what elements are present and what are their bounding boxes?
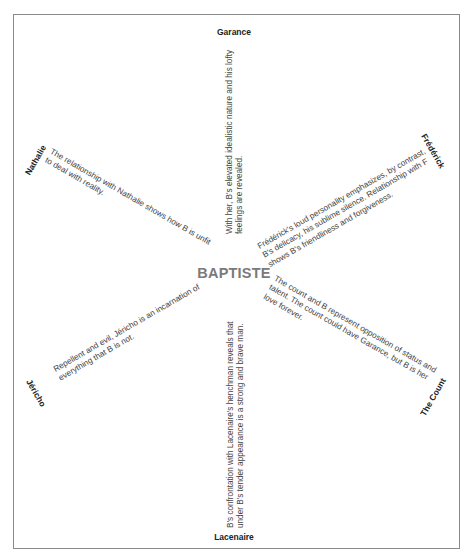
center-character-baptiste: BAPTISTE (197, 265, 270, 281)
character-label-lacenaire: Lacenaire (214, 532, 254, 542)
character-label-garance: Garance (217, 27, 251, 37)
relationship-text-lacenaire: B's confrontation with Lacenaire's hench… (226, 306, 247, 528)
relationship-text-garance: With her, B's elevated idealistic nature… (225, 44, 246, 234)
